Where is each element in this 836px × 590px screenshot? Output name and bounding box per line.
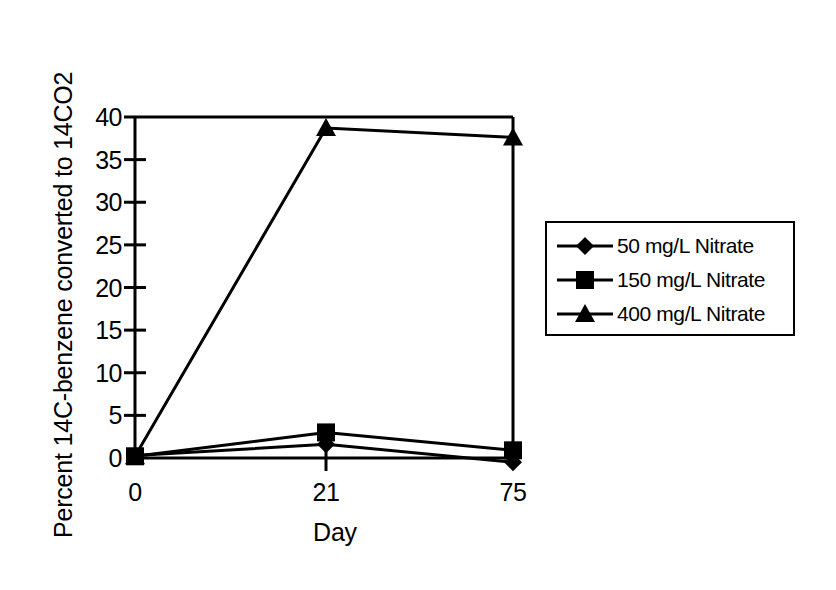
triangle-marker-icon [556,301,614,327]
legend-item: 400 mg/L Nitrate [547,297,793,331]
legend-marker-sample [556,267,614,293]
legend-item: 50 mg/L Nitrate [547,229,793,263]
legend-label: 400 mg/L Nitrate [614,302,765,326]
legend-label: 50 mg/L Nitrate [614,234,754,258]
square-marker-icon [556,267,614,293]
legend-marker-sample [556,301,614,327]
legend-label: 150 mg/L Nitrate [614,268,765,292]
diamond-marker-icon [556,233,614,259]
chart-legend: 50 mg/L Nitrate150 mg/L Nitrate400 mg/L … [545,221,795,336]
diamond-marker [576,237,594,255]
data-series-group [125,118,523,471]
legend-marker-sample [556,233,614,259]
series-triangle [125,118,523,464]
legend-item: 150 mg/L Nitrate [547,263,793,297]
axis-lines [135,117,513,460]
series-line [135,128,513,456]
chart-figure: Percent 14C-benzene converted to 14CO2 D… [0,0,836,590]
square-marker [504,441,522,459]
square-marker [317,423,335,441]
square-marker [576,271,594,289]
